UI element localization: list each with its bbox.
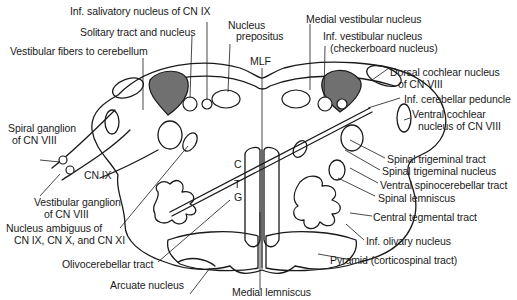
label-spinal-trigeminal-nucleus: Spinal trigeminal nucleus: [382, 165, 496, 177]
label-inf-cerebellar-peduncle: Inf. cerebellar peduncle: [404, 93, 511, 105]
label-inf-vestibular-2: (checkerboard nucleus): [330, 42, 438, 54]
label-ventral-cochlear-1: Ventral cochlear: [412, 108, 486, 120]
label-spiral-ganglion-2: of CN VIII: [12, 134, 57, 146]
label-vestibular-ganglion-2: of CN VIII: [44, 208, 89, 220]
label-ctg-c: C: [234, 158, 241, 170]
right-small-nucleus: [337, 99, 347, 109]
label-mlf: MLF: [250, 55, 271, 67]
mlf-left: [212, 90, 240, 108]
olivocerebellar-tract-fibers-2: [172, 112, 372, 216]
label-dorsal-cochlear-1: Dorsal cochlear nucleus: [390, 66, 500, 78]
inf-vestibular-left-shaded: [149, 71, 188, 115]
nucleus-ambiguus-shape: [180, 130, 200, 153]
label-nucleus-ambiguus-2: CN IX, CN X, and CN XI: [14, 234, 125, 246]
spinal-lemniscus-right: [329, 160, 345, 180]
spinal-trigeminal-right: [341, 125, 363, 151]
label-nucleus-ambiguus-1: Nucleus ambiguus of: [6, 222, 102, 234]
label-spiral-ganglion-1: Spiral ganglion: [8, 122, 76, 134]
label-vestibular-fibers: Vestibular fibers to cerebellum: [10, 45, 148, 57]
label-arcuate: Arcuate nucleus: [110, 279, 184, 291]
label-pyramid: Pyramid (corticospinal tract): [330, 254, 457, 266]
spiral-ganglion-marker: [59, 156, 67, 164]
label-dorsal-cochlear-2: of CN VIII: [398, 78, 443, 90]
label-nucleus-prepositus-2: prepositus: [236, 30, 283, 42]
spinal-trigeminal-left: [158, 121, 182, 149]
vestibular-ganglion-marker: [66, 166, 74, 174]
label-spinal-trigeminal-tract: Spinal trigeminal tract: [387, 153, 486, 165]
label-medial-lemniscus: Medial lemniscus: [232, 286, 311, 298]
label-central-tegmental: Central tegmental tract: [373, 211, 477, 223]
medial-lemniscus-left: [245, 148, 260, 247]
solitary-nucleus-right: [318, 97, 332, 111]
label-medial-vestibular: Medial vestibular nucleus: [306, 13, 421, 25]
label-inf-olivary: Inf. olivary nucleus: [366, 235, 451, 247]
label-inf-vestibular-1: Inf. vestibular nucleus: [323, 30, 422, 42]
label-olivocerebellar: Olivocerebellar tract: [62, 258, 153, 270]
label-ventral-cochlear-2: nucleus of CN VIII: [418, 120, 501, 132]
label-spinal-lemniscus: Spinal lemniscus: [378, 192, 455, 204]
label-inf-salivatory: Inf. salivatory nucleus of CN IX: [70, 5, 210, 17]
label-vestibular-ganglion-1: Vestibular ganglion: [34, 196, 121, 208]
mlf-right: [282, 90, 310, 108]
label-solitary-tract: Solitary tract and nucleus: [80, 26, 195, 38]
label-ctg-t: T: [234, 178, 240, 190]
inf-olivary-right: [294, 176, 341, 228]
label-ctg-g: G: [234, 191, 242, 203]
label-cn-ix: CN IX: [84, 169, 112, 181]
inf-salivatory-left: [202, 99, 212, 109]
solitary-nucleus-left: [183, 97, 197, 111]
label-ventral-spinocerebellar: Ventral spinocerebellar tract: [380, 179, 507, 191]
